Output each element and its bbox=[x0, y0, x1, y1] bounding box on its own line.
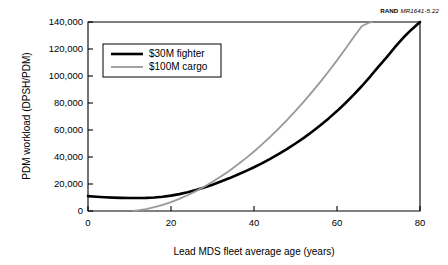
x-tick-label: 60 bbox=[332, 217, 343, 228]
y-axis-title: PDM workload (DPSH/PDM) bbox=[21, 52, 32, 179]
y-tick-label: 120,000 bbox=[49, 43, 83, 54]
x-tick-label: 0 bbox=[85, 217, 90, 228]
x-tick-label: 20 bbox=[166, 217, 177, 228]
x-tick-label: 80 bbox=[415, 217, 426, 228]
x-axis-title: Lead MDS fleet average age (years) bbox=[173, 246, 334, 257]
y-tick-label: 100,000 bbox=[49, 70, 83, 81]
y-tick-label: 80,000 bbox=[54, 97, 83, 108]
y-tick-label: 60,000 bbox=[54, 124, 83, 135]
legend-label: $100M cargo bbox=[149, 61, 208, 72]
y-tick-label: 20,000 bbox=[54, 178, 83, 189]
chart-legend: $30M fighter$100M cargo bbox=[103, 44, 221, 77]
y-tick-label: 40,000 bbox=[54, 151, 83, 162]
y-tick-label: 0 bbox=[78, 205, 83, 216]
figure-container: RANDMR1641-5.22 020,00040,00060,00080,00… bbox=[0, 0, 448, 265]
y-axis-tick-labels: 020,00040,00060,00080,000100,000120,0001… bbox=[49, 16, 83, 216]
x-tick-label: 40 bbox=[249, 217, 260, 228]
y-axis-ticks bbox=[88, 22, 93, 211]
y-tick-label: 140,000 bbox=[49, 16, 83, 27]
x-axis-tick-labels: 020406080 bbox=[85, 217, 425, 228]
legend-label: $30M fighter bbox=[149, 48, 205, 59]
pdm-workload-line-chart: 020,00040,00060,00080,000100,000120,0001… bbox=[0, 0, 448, 265]
